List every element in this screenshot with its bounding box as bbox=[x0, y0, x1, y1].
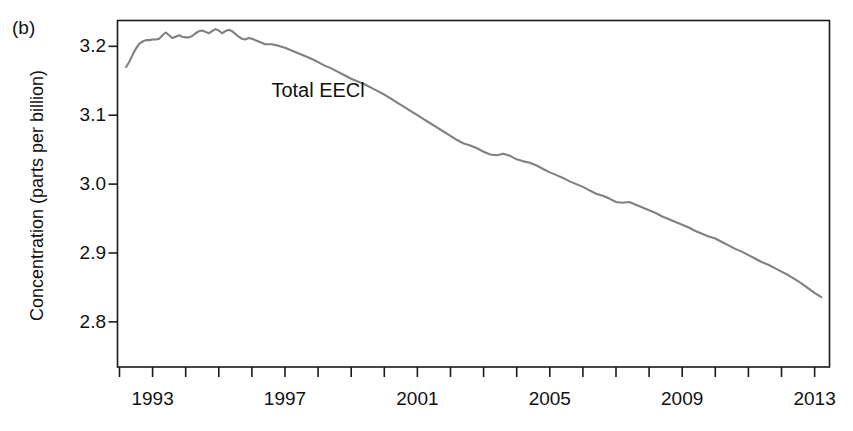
y-tick-label: 3.0 bbox=[60, 173, 106, 195]
data-series-total-eecl bbox=[126, 29, 821, 297]
plot-frame bbox=[118, 21, 830, 368]
y-axis-title: Concentration (parts per billion) bbox=[27, 11, 48, 381]
y-axis-ticks bbox=[109, 46, 118, 322]
y-tick-label-group: 3.23.13.02.92.8 bbox=[48, 0, 106, 431]
series-annotation-total-eecl: Total EECl bbox=[271, 78, 364, 101]
x-tick-label: 2001 bbox=[396, 388, 438, 410]
plot-area bbox=[0, 0, 853, 431]
x-axis-ticks bbox=[119, 367, 814, 377]
y-tick-label: 2.9 bbox=[60, 242, 106, 264]
x-tick-label: 1993 bbox=[131, 388, 173, 410]
x-tick-label: 1997 bbox=[264, 388, 306, 410]
x-tick-label: 2005 bbox=[529, 388, 571, 410]
figure-panel-b: (b) Concentration (parts per billion) 3.… bbox=[0, 0, 853, 431]
y-tick-label: 3.1 bbox=[60, 104, 106, 126]
x-tick-label: 2009 bbox=[661, 388, 703, 410]
y-tick-label: 3.2 bbox=[60, 35, 106, 57]
x-tick-label: 2013 bbox=[793, 388, 835, 410]
y-tick-label: 2.8 bbox=[60, 311, 106, 333]
